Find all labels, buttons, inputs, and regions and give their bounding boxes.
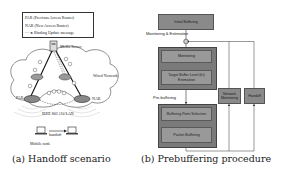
network-monitoring-box: Network Monitoring — [218, 88, 241, 104]
handoff-box: Handoff — [244, 88, 265, 104]
packet-buffering-box: Packet Buffering — [161, 127, 212, 143]
pre-buffering-label: Pre-buffering — [153, 96, 176, 101]
monitoring-box: Monitoring — [161, 50, 212, 63]
target-buffer-estimation-box: Target Buffer Level (bₜ) Estimation — [161, 70, 212, 85]
caption-b: (b) Prebuffering procedure — [141, 153, 271, 164]
buffering-point-selection-box: Buffering Point Selection — [161, 107, 212, 121]
monitoring-estimation-label: Monitoring & Estimation — [146, 32, 170, 37]
initial-buffering-box: Initial Buffering — [158, 14, 214, 30]
